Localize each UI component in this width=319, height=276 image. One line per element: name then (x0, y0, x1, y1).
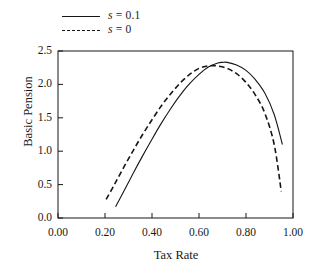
chart-figure: s = 0.1 s = 0 Basic Pension Tax Rate 0.0… (0, 0, 319, 276)
plot-area (0, 0, 319, 276)
axes-frame (58, 51, 293, 218)
series-line-1 (106, 66, 281, 200)
data-series-layer (106, 62, 282, 207)
axis-tick-marks (58, 51, 293, 218)
plot-frame (58, 51, 293, 218)
series-line-0 (116, 62, 283, 207)
